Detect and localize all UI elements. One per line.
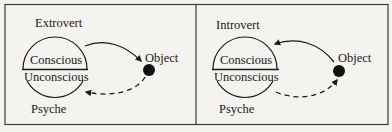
dashed-arrow-to-psyche xyxy=(86,77,145,94)
solid-arrow-to-object xyxy=(85,43,141,61)
object-dot xyxy=(143,64,155,76)
unconscious-label: Unconscious xyxy=(24,70,89,84)
psyche-label: Psyche xyxy=(219,102,255,116)
conscious-label: Conscious xyxy=(220,53,272,67)
unconscious-label: Unconscious xyxy=(214,70,279,84)
object-label: Object xyxy=(338,51,372,65)
panel-introvert: Introvert Conscious Unconscious Psyche O… xyxy=(212,18,372,116)
diagram: Extrovert Conscious Unconscious Psyche O… xyxy=(0,0,392,132)
conscious-label: Conscious xyxy=(30,53,82,67)
dashed-arrow-to-object xyxy=(276,80,337,97)
object-dot xyxy=(333,65,345,77)
panel-title: Extrovert xyxy=(35,16,83,30)
panel-extrovert: Extrovert Conscious Unconscious Psyche O… xyxy=(22,16,179,116)
panel-title: Introvert xyxy=(216,18,260,32)
object-label: Object xyxy=(145,51,179,65)
solid-arrow-to-psyche xyxy=(275,41,334,62)
psyche-label: Psyche xyxy=(31,102,67,116)
